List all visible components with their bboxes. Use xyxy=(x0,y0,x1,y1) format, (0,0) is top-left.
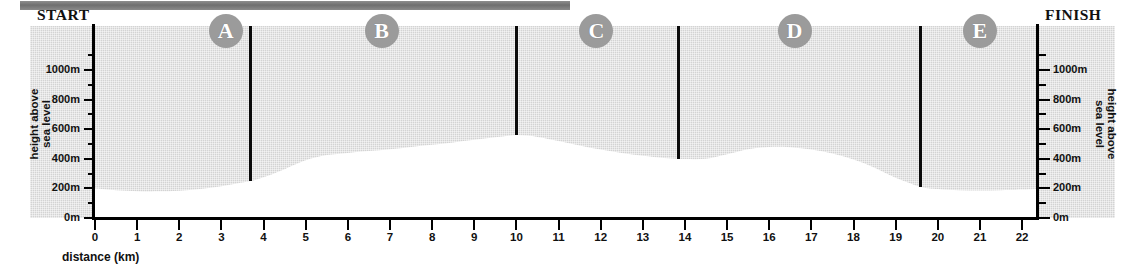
finish-label: FINISH xyxy=(1045,6,1101,24)
x-tick-11 xyxy=(558,220,560,230)
x-tick-label-5: 5 xyxy=(292,232,320,244)
y-tick-right-600 xyxy=(1039,128,1050,130)
y-tick-label-left-0: 0m xyxy=(18,212,80,223)
x-tick-label-3: 3 xyxy=(207,232,235,244)
x-tick-17 xyxy=(810,220,812,230)
x-tick-label-17: 17 xyxy=(797,232,825,244)
x-tick-label-12: 12 xyxy=(587,232,615,244)
x-tick-label-8: 8 xyxy=(418,232,446,244)
checkpoint-marker-b[interactable]: B xyxy=(365,14,399,48)
y-tick-label-right-200: 200m xyxy=(1053,182,1081,193)
x-tick-label-7: 7 xyxy=(376,232,404,244)
x-tick-15 xyxy=(726,220,728,230)
x-tick-label-18: 18 xyxy=(840,232,868,244)
profile-plot-area xyxy=(30,26,1115,218)
y-tick-right-1000 xyxy=(1039,69,1050,71)
x-tick-18 xyxy=(853,220,855,230)
start-label: START xyxy=(37,6,90,24)
x-tick-label-13: 13 xyxy=(629,232,657,244)
y-tick-left-800 xyxy=(84,99,95,101)
y-minor-tick-left-1100 xyxy=(88,54,95,56)
x-tick-label-21: 21 xyxy=(966,232,994,244)
x-tick-label-4: 4 xyxy=(250,232,278,244)
x-tick-20 xyxy=(937,220,939,230)
y-tick-right-400 xyxy=(1039,158,1050,160)
x-tick-5 xyxy=(305,220,307,230)
x-tick-label-11: 11 xyxy=(545,232,573,244)
x-tick-label-9: 9 xyxy=(460,232,488,244)
y-tick-label-left-200: 200m xyxy=(18,182,80,193)
section-divider-3 xyxy=(677,26,680,159)
elevation-profile-figure: START FINISH ABCDE 0m0m200m200m400m400m6… xyxy=(0,0,1132,269)
x-tick-label-1: 1 xyxy=(123,232,151,244)
x-tick-label-14: 14 xyxy=(671,232,699,244)
x-tick-12 xyxy=(600,220,602,230)
y-minor-tick-right-900 xyxy=(1039,84,1046,86)
y-axis-title-left: height abovesea level xyxy=(28,76,52,172)
y-tick-label-right-1000: 1000m xyxy=(1053,64,1087,75)
y-tick-label-right-400: 400m xyxy=(1053,153,1081,164)
x-tick-4 xyxy=(263,220,265,230)
y-minor-tick-right-300 xyxy=(1039,173,1046,175)
x-tick-label-6: 6 xyxy=(334,232,362,244)
y-minor-tick-left-500 xyxy=(88,143,95,145)
x-tick-label-10: 10 xyxy=(502,232,530,244)
checkpoint-marker-d[interactable]: D xyxy=(778,14,812,48)
x-tick-label-2: 2 xyxy=(165,232,193,244)
x-tick-22 xyxy=(1021,220,1023,230)
x-tick-16 xyxy=(768,220,770,230)
section-divider-1 xyxy=(249,26,252,181)
x-tick-0 xyxy=(94,220,96,230)
y-minor-tick-right-700 xyxy=(1039,113,1046,115)
section-divider-2 xyxy=(515,26,518,135)
x-tick-label-20: 20 xyxy=(924,232,952,244)
y-tick-right-800 xyxy=(1039,99,1050,101)
y-tick-left-600 xyxy=(84,128,95,130)
y-minor-tick-right-500 xyxy=(1039,143,1046,145)
x-tick-21 xyxy=(979,220,981,230)
y-tick-left-0 xyxy=(84,217,95,219)
x-tick-label-15: 15 xyxy=(713,232,741,244)
x-tick-7 xyxy=(389,220,391,230)
y-tick-left-1000 xyxy=(84,69,95,71)
x-tick-2 xyxy=(178,220,180,230)
x-tick-8 xyxy=(431,220,433,230)
y-tick-label-right-800: 800m xyxy=(1053,94,1081,105)
y-tick-label-right-600: 600m xyxy=(1053,123,1081,134)
x-tick-9 xyxy=(473,220,475,230)
x-tick-label-0: 0 xyxy=(81,232,109,244)
y-minor-tick-left-900 xyxy=(88,84,95,86)
y-tick-left-400 xyxy=(84,158,95,160)
terrain-cross-section xyxy=(30,26,1115,218)
x-tick-1 xyxy=(136,220,138,230)
y-minor-tick-right-1100 xyxy=(1039,54,1046,56)
y-tick-right-200 xyxy=(1039,187,1050,189)
y-minor-tick-left-100 xyxy=(88,202,95,204)
x-tick-13 xyxy=(642,220,644,230)
x-tick-6 xyxy=(347,220,349,230)
y-minor-tick-left-700 xyxy=(88,113,95,115)
y-tick-label-right-0: 0m xyxy=(1053,212,1069,223)
y-minor-tick-left-300 xyxy=(88,173,95,175)
checkpoint-marker-a[interactable]: A xyxy=(209,14,243,48)
y-tick-left-200 xyxy=(84,187,95,189)
x-tick-10 xyxy=(515,220,517,230)
x-tick-label-19: 19 xyxy=(882,232,910,244)
x-axis-title: distance (km) xyxy=(62,250,139,264)
y-axis-title-right: height abovesea level xyxy=(1094,76,1118,172)
checkpoint-marker-e[interactable]: E xyxy=(963,14,997,48)
y-tick-label-left-1000: 1000m xyxy=(18,64,80,75)
top-cropped-banner xyxy=(20,1,570,10)
y-minor-tick-right-100 xyxy=(1039,202,1046,204)
x-tick-label-16: 16 xyxy=(755,232,783,244)
y-tick-right-0 xyxy=(1039,217,1050,219)
ground-area xyxy=(95,135,1037,218)
section-divider-4 xyxy=(919,26,922,187)
x-tick-19 xyxy=(895,220,897,230)
x-tick-3 xyxy=(220,220,222,230)
x-tick-label-22: 22 xyxy=(1008,232,1036,244)
x-tick-14 xyxy=(684,220,686,230)
x-axis xyxy=(92,217,1039,220)
